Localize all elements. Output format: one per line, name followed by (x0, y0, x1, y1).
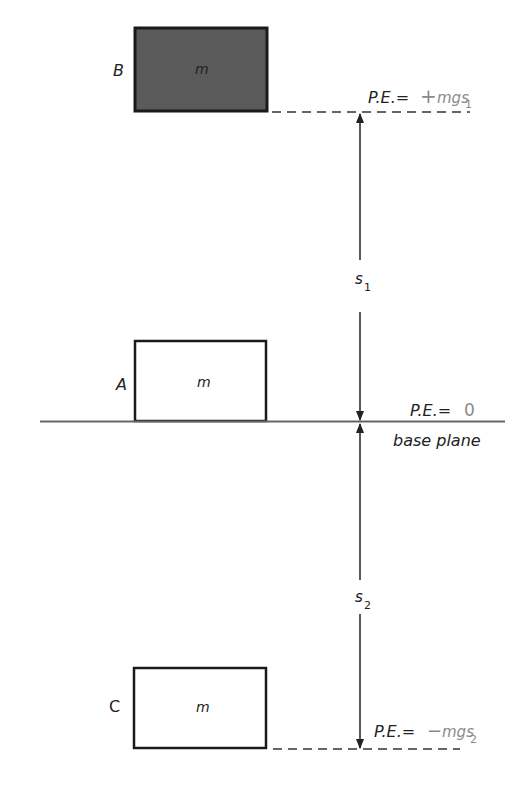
pe-base-prefix: P.E.= (410, 401, 451, 420)
base-plane-caption: base plane (393, 431, 481, 450)
pe-top-subscript: 1 (465, 98, 472, 111)
potential-energy-diagram: B m P.E.= + mgs 1 s 1 A m P.E.= 0 base p… (0, 0, 532, 787)
block-a: A m (115, 341, 266, 421)
pe-bottom-sign: − (427, 720, 442, 741)
block-c-label: C (109, 697, 120, 716)
block-c-mass: m (196, 699, 210, 715)
pe-bottom-prefix: P.E.= (374, 722, 415, 741)
block-b: B m (113, 28, 267, 111)
block-a-label: A (115, 375, 127, 394)
s2-name: s (355, 588, 363, 606)
pe-bottom-subscript: 2 (470, 733, 477, 746)
block-a-mass: m (197, 374, 211, 390)
s1-label: s 1 (355, 270, 371, 294)
pe-top-prefix: P.E.= (368, 88, 409, 107)
s1-name: s (355, 270, 363, 288)
pe-bottom-label: P.E.= − mgs 2 (374, 720, 477, 746)
pe-top-label: P.E.= + mgs 1 (368, 84, 472, 111)
s1-subscript: 1 (364, 281, 371, 294)
block-b-mass: m (195, 61, 209, 77)
pe-top-sign: + (420, 84, 437, 108)
block-b-label: B (113, 61, 124, 80)
pe-base-value: 0 (464, 400, 475, 420)
block-c: C m (109, 668, 266, 748)
pe-base-label: P.E.= 0 (410, 400, 475, 420)
s2-subscript: 2 (364, 599, 371, 612)
s2-label: s 2 (355, 588, 371, 612)
